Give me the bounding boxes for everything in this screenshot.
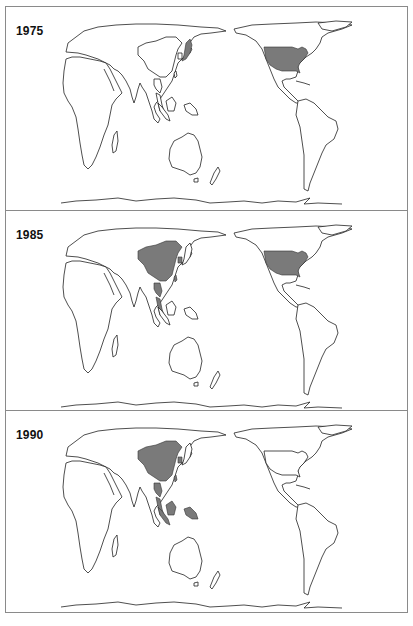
australia-outline	[169, 133, 202, 175]
caribbean-outline	[296, 285, 310, 289]
madagascar-outline	[112, 335, 118, 357]
antarctica-outline	[61, 402, 342, 408]
caribbean-outline	[296, 81, 310, 85]
indonesia-shape	[158, 97, 198, 121]
tasmania-outline	[194, 178, 198, 182]
map-panel-1985: 1985	[6, 210, 407, 411]
australia-outline	[169, 337, 202, 379]
south-america-outline	[296, 99, 338, 191]
world-map	[6, 411, 407, 611]
greenland-outline	[318, 21, 352, 31]
madagascar-outline	[112, 131, 118, 153]
world-map	[6, 211, 407, 411]
antarctica-outline	[61, 602, 342, 608]
indonesia-shape	[158, 501, 198, 525]
south-america-outline	[296, 303, 338, 395]
madagascar-outline	[112, 535, 118, 557]
australia-outline	[169, 537, 202, 579]
south-korea-shape	[178, 257, 182, 263]
new-zealand-outline	[210, 371, 220, 389]
map-panel-1975: 1975	[6, 7, 407, 207]
south-korea-shape	[178, 457, 182, 463]
antarctica-outline	[61, 198, 342, 204]
taiwan-shape	[174, 71, 177, 78]
caribbean-outline	[296, 485, 310, 489]
indonesia-shape	[158, 301, 198, 325]
tasmania-outline	[194, 382, 198, 386]
tasmania-outline	[194, 582, 198, 586]
south-america-outline	[296, 503, 338, 595]
world-map	[6, 7, 407, 207]
south-korea-shape	[178, 53, 182, 59]
greenland-outline	[318, 425, 352, 435]
figure-frame: 1975 1985	[5, 6, 408, 613]
new-zealand-outline	[210, 571, 220, 589]
new-zealand-outline	[210, 167, 220, 185]
map-panel-1990: 1990	[6, 410, 407, 611]
greenland-outline	[318, 225, 352, 235]
